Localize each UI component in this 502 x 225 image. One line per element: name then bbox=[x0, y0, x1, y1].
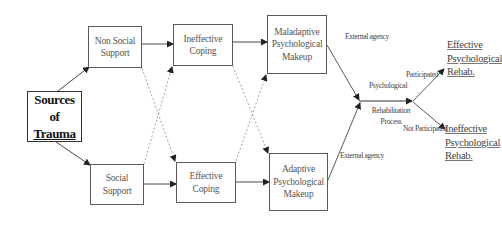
adaptive-line3: Makeup bbox=[284, 188, 314, 201]
non-social-line1: Non Social bbox=[95, 35, 135, 48]
dashed-effective-to-maladaptive bbox=[236, 75, 266, 161]
effective-rehab-line2: Psychological bbox=[447, 52, 502, 66]
ineffective-rehab-line1: Ineffective bbox=[445, 122, 500, 136]
social-line2: Support bbox=[103, 185, 132, 198]
ineffective-rehab-line3: Rehab. bbox=[445, 149, 500, 163]
effective-rehab-outcome: Effective Psychological Rehab. bbox=[447, 38, 502, 79]
effective-coping-box: Effective Coping bbox=[176, 162, 236, 203]
adaptive-line1: Adaptive bbox=[282, 163, 315, 176]
social-line1: Social bbox=[106, 172, 129, 185]
effective-rehab-line3: Rehab. bbox=[447, 65, 502, 79]
adaptive-line2: Psychological bbox=[273, 176, 324, 189]
effective-coping-line1: Effective bbox=[190, 170, 223, 183]
line-adaptive-to-hub bbox=[328, 103, 360, 180]
sources-line1: Sources of bbox=[28, 91, 81, 125]
dashed-social-to-ineffective bbox=[144, 67, 172, 164]
ineffective-coping-box: Ineffective Coping bbox=[173, 24, 233, 66]
line-maladaptive-to-hub bbox=[327, 45, 359, 100]
sources-line2: Trauma bbox=[33, 125, 75, 142]
ineffective-rehab-line2: Psychological bbox=[445, 136, 500, 150]
non-social-line2: Support bbox=[101, 47, 130, 60]
maladaptive-makeup-box: Maladaptive Psychological Makeup bbox=[267, 15, 327, 74]
effective-coping-line2: Coping bbox=[193, 183, 220, 196]
arrow-source-to-nonsocial bbox=[58, 67, 89, 91]
dashed-ineffective-to-adaptive bbox=[233, 66, 268, 153]
external-agency-top-label: External agency bbox=[345, 32, 389, 41]
maladaptive-line3: Makeup bbox=[282, 51, 312, 64]
ineffective-rehab-outcome: Ineffective Psychological Rehab. bbox=[445, 122, 500, 163]
effective-rehab-line1: Effective bbox=[447, 38, 502, 52]
arrow-source-to-social bbox=[56, 142, 90, 165]
ineffective-coping-line1: Ineffective bbox=[184, 33, 223, 46]
maladaptive-line1: Maladaptive bbox=[274, 26, 319, 39]
sources-of-trauma-box: Sources of Trauma bbox=[27, 91, 82, 142]
maladaptive-line2: Psychological bbox=[272, 38, 323, 51]
adaptive-makeup-box: Adaptive Psychological Makeup bbox=[269, 153, 328, 211]
ineffective-coping-line2: Coping bbox=[190, 45, 217, 58]
external-agency-bottom-label: External agency bbox=[340, 151, 384, 160]
non-social-support-box: Non Social Support bbox=[88, 26, 142, 68]
social-support-box: Social Support bbox=[90, 164, 144, 205]
process-label-psychological: Psychological bbox=[369, 81, 407, 90]
dashed-nonsocial-to-effective bbox=[142, 68, 175, 161]
participated-label: Participated bbox=[406, 70, 438, 79]
process-line2: Rehabilitation bbox=[370, 105, 412, 116]
not-participated-label: Not Participated bbox=[403, 124, 447, 133]
